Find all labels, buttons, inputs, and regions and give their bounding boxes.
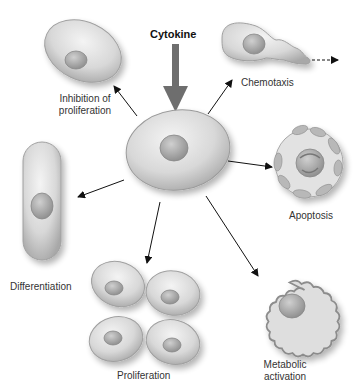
arrow-to-metabolic [206, 196, 258, 276]
proliferation-cells [84, 254, 205, 370]
center-cell [121, 103, 235, 197]
cytokine-label: Cytokine [150, 28, 196, 40]
arrow-to-proliferation [147, 202, 160, 263]
proliferation-label: Proliferation [117, 370, 170, 382]
inhibition-label: Inhibition of proliferation [52, 93, 118, 117]
metabolic-activation-cell [267, 281, 340, 357]
inhibition-cell [34, 8, 131, 94]
cytokine-effects-diagram [0, 0, 355, 390]
chemotaxis-label: Chemotaxis [241, 77, 294, 89]
apoptosis-label: Apoptosis [289, 210, 333, 222]
metabolic-activation-label: Metabolic activation [252, 359, 318, 383]
chemotaxis-cell [222, 23, 310, 64]
arrow-to-differentiation [78, 180, 124, 197]
differentiation-cell [23, 142, 61, 260]
cytokine-arrow [163, 44, 188, 112]
differentiation-label: Differentiation [10, 281, 72, 293]
apoptosis-cell [273, 124, 343, 200]
arrow-to-chemotaxis [208, 80, 232, 114]
arrow-to-apoptosis [228, 161, 272, 167]
